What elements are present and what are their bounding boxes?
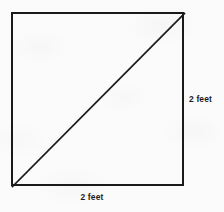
geometry-figure: 2 feet 2 feet <box>0 0 224 212</box>
diagonal-line <box>11 12 186 188</box>
bottom-side-dimension-label: 2 feet <box>0 193 224 202</box>
right-side-dimension-label: 2 feet <box>189 95 212 104</box>
diagonal-segment <box>13 14 185 187</box>
